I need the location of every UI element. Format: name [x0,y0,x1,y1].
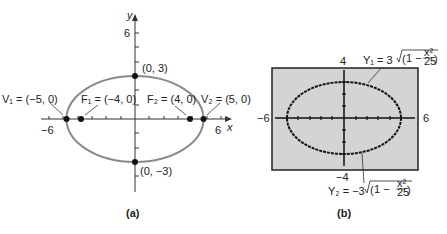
y1-paren-close: ) [434,53,438,65]
x-axis-label: x [226,121,233,133]
panel-b: 4 −4 −6 6 Y₁ = 3 ( 1 − x² 25 ) Y₂ = −3 (… [257,46,438,219]
ymin-label: −4 [336,171,349,183]
figure: y x 6 −6 6 (0, 3) (0, −3) V₁ = (−5, 0) F… [0,0,447,234]
x-tick-neg6: −6 [41,124,54,136]
caption-b: (b) [337,207,351,219]
f1-label: F₁ = (−4, 0) [81,93,136,105]
svg-text:1 −: 1 − [406,52,422,64]
xmax-label: 6 [423,112,429,124]
y-axis-arrow-icon [132,14,138,21]
point-bottom-vertex [132,159,138,165]
point-top-vertex [132,73,138,79]
point-f2 [187,116,193,122]
f2-label: F₂ = (4, 0) [147,93,196,105]
svg-text:1 −: 1 − [374,183,390,195]
y-tick-6: 6 [124,27,130,39]
panel-a: y x 6 −6 6 (0, 3) (0, −3) V₁ = (−5, 0) F… [2,9,251,219]
svg-text:Y₁ = 3: Y₁ = 3 [363,54,393,66]
x-tick-6: 6 [215,124,221,136]
bottom-vertex-label: (0, −3) [140,165,172,177]
xmin-label: −6 [257,112,270,124]
point-v1 [64,116,70,122]
caption-a: (a) [126,207,140,219]
v2-label: V₂ = (5, 0) [201,93,251,105]
top-vertex-label: (0, 3) [142,62,168,74]
point-f1 [78,116,84,122]
svg-text:Y₂ = −3: Y₂ = −3 [328,185,365,197]
v1-label: V₁ = (−5, 0) [2,93,58,105]
y2-paren-close: ) [407,184,411,196]
point-v2 [201,116,207,122]
ymax-label: 4 [340,55,346,67]
